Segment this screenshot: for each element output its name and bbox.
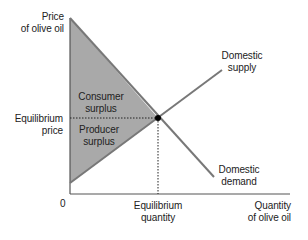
equilibrium-quantity-line1: Equilibrium (130, 200, 186, 212)
equilibrium-price-line1: Equilibrium (15, 113, 63, 125)
demand-label-line2: demand (216, 176, 262, 188)
supply-label: Domestic supply (220, 50, 264, 74)
x-axis-label: Quantity of olive oil (248, 200, 291, 224)
x-axis-label-line1: Quantity (248, 200, 291, 212)
producer-surplus-label: Producer surplus (77, 124, 121, 148)
y-axis-label-line1: Price (21, 11, 64, 23)
supply-label-line1: Domestic (220, 50, 264, 62)
producer-surplus-line2: surplus (77, 136, 121, 148)
equilibrium-quantity-label: Equilibrium quantity (130, 200, 186, 224)
y-axis-label: Price of olive oil (21, 11, 64, 35)
demand-label-line1: Domestic (216, 164, 262, 176)
consumer-surplus-line2: surplus (77, 103, 125, 115)
equilibrium-quantity-line2: quantity (130, 212, 186, 224)
producer-surplus-line1: Producer (77, 124, 121, 136)
consumer-surplus-line1: Consumer (77, 91, 125, 103)
y-axis-label-line2: of olive oil (21, 23, 64, 35)
equilibrium-point (155, 115, 161, 121)
equilibrium-price-line2: price (15, 125, 63, 137)
consumer-surplus-label: Consumer surplus (77, 91, 125, 115)
supply-label-line2: supply (220, 62, 264, 74)
origin-label: 0 (60, 198, 65, 210)
x-axis-label-line2: of olive oil (248, 212, 291, 224)
equilibrium-price-label: Equilibrium price (15, 113, 63, 137)
demand-label: Domestic demand (216, 164, 262, 188)
